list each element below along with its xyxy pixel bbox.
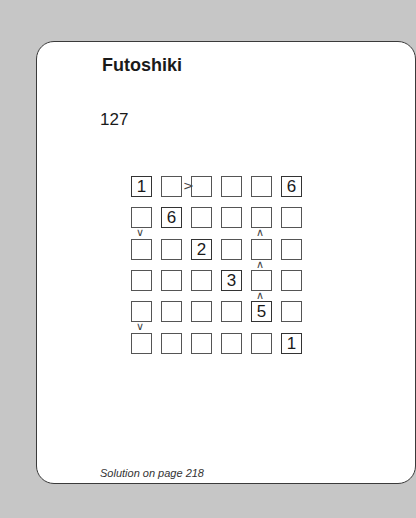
chevron-down-icon: ∨ [136, 322, 144, 332]
grid-cell[interactable] [221, 239, 242, 260]
grid-cell[interactable] [281, 301, 302, 322]
grid-cell[interactable] [191, 301, 212, 322]
grid-cell[interactable] [281, 270, 302, 291]
grid-cell[interactable] [221, 333, 242, 354]
grid-cell[interactable] [191, 333, 212, 354]
greater-than-icon: > [183, 181, 194, 191]
grid-cell[interactable] [191, 270, 212, 291]
grid-cell[interactable] [131, 270, 152, 291]
grid-cell[interactable] [131, 239, 152, 260]
solution-reference: Solution on page 218 [100, 467, 204, 479]
chevron-down-icon: ∨ [136, 228, 144, 238]
grid-cell[interactable] [131, 333, 152, 354]
grid-cell[interactable] [251, 239, 272, 260]
puzzle-number: 127 [100, 110, 128, 130]
grid-cell[interactable] [251, 207, 272, 228]
grid-cell[interactable] [131, 207, 152, 228]
grid-cell[interactable]: 1 [281, 333, 302, 354]
page-title: Futoshiki [102, 55, 182, 76]
grid-cell[interactable] [251, 333, 272, 354]
grid-cell[interactable] [191, 207, 212, 228]
puzzle-page-card [36, 41, 416, 484]
grid-cell[interactable] [161, 333, 182, 354]
grid-cell[interactable] [221, 207, 242, 228]
grid-cell[interactable]: 6 [161, 207, 182, 228]
grid-cell[interactable]: 3 [221, 270, 242, 291]
grid-cell[interactable]: 6 [281, 176, 302, 197]
grid-cell[interactable] [161, 270, 182, 291]
chevron-up-icon: ∧ [256, 260, 264, 270]
grid-cell[interactable]: 2 [191, 239, 212, 260]
grid-cell[interactable] [191, 176, 212, 197]
chevron-up-icon: ∧ [256, 291, 264, 301]
grid-cell[interactable] [251, 176, 272, 197]
grid-cell[interactable] [281, 239, 302, 260]
grid-cell[interactable] [221, 176, 242, 197]
grid-cell[interactable]: 5 [251, 301, 272, 322]
grid-cell[interactable] [161, 239, 182, 260]
grid-cell[interactable] [281, 207, 302, 228]
grid-cell[interactable] [131, 301, 152, 322]
chevron-up-icon: ∧ [256, 228, 264, 238]
grid-cell[interactable] [161, 301, 182, 322]
grid-cell[interactable] [251, 270, 272, 291]
grid-cell[interactable]: 1 [131, 176, 152, 197]
grid-cell[interactable] [221, 301, 242, 322]
grid-cell[interactable] [161, 176, 182, 197]
